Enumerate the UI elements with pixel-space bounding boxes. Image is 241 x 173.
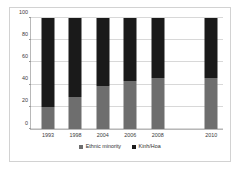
bar-slot: 2010 — [197, 18, 224, 129]
x-axis-tick-label: 1993 — [42, 133, 54, 138]
legend-swatch-icon — [79, 145, 83, 149]
bar-segment-kinh-hoa[interactable] — [41, 18, 54, 107]
x-axis-tick-label: 2004 — [97, 133, 109, 138]
plot-area: 020406080100 199319982004200620082010 — [30, 18, 223, 130]
stacked-bar[interactable] — [151, 18, 164, 129]
bar-segment-ethnic-minority[interactable] — [69, 97, 82, 129]
bar-segment-ethnic-minority[interactable] — [96, 86, 109, 129]
bar-slot: 2006 — [117, 18, 144, 129]
bar-group: 199319982004200620082010 — [31, 18, 223, 129]
bar-slot: 2004 — [89, 18, 116, 129]
bar-segment-ethnic-minority[interactable] — [151, 78, 164, 129]
y-axis-tick-label: 80 — [22, 32, 28, 37]
bar-segment-kinh-hoa[interactable] — [124, 18, 137, 81]
bar-segment-kinh-hoa[interactable] — [205, 18, 218, 78]
bar-segment-ethnic-minority[interactable] — [205, 78, 218, 129]
y-axis-tick-label: 20 — [22, 99, 28, 104]
stacked-bar[interactable] — [69, 18, 82, 129]
bar-slot: 1993 — [34, 18, 61, 129]
bar-segment-kinh-hoa[interactable] — [96, 18, 109, 86]
legend-item-kinh-hoa: Kinh/Hoa — [132, 144, 161, 149]
bar-slot: 1998 — [62, 18, 89, 129]
bar-segment-ethnic-minority[interactable] — [124, 81, 137, 129]
legend-swatch-icon — [132, 145, 136, 149]
chart-legend: Ethnic minority Kinh/Hoa — [10, 144, 230, 149]
x-axis-tick-label: 1998 — [69, 133, 81, 138]
stacked-bar[interactable] — [124, 18, 137, 129]
bar-segment-kinh-hoa[interactable] — [151, 18, 164, 78]
bar-segment-kinh-hoa[interactable] — [69, 18, 82, 97]
y-axis-tick-label: 100 — [19, 10, 28, 15]
bar-segment-ethnic-minority[interactable] — [41, 107, 54, 129]
legend-label: Ethnic minority — [86, 144, 121, 149]
y-axis-tick-label: 40 — [22, 77, 28, 82]
stacked-bar[interactable] — [96, 18, 109, 129]
stacked-bar[interactable] — [205, 18, 218, 129]
x-axis-tick-label: 2008 — [152, 133, 164, 138]
legend-label: Kinh/Hoa — [139, 144, 161, 149]
x-axis-tick-label: 2010 — [205, 133, 217, 138]
y-axis-tick-label: 60 — [22, 54, 28, 59]
y-axis-tick-label: 0 — [25, 121, 28, 126]
legend-item-ethnic-minority: Ethnic minority — [79, 144, 121, 149]
chart-container: 020406080100 199319982004200620082010 Et… — [9, 7, 231, 162]
chart-plot-wrapper: 020406080100 199319982004200620082010 Et… — [10, 8, 230, 161]
stacked-bar[interactable] — [41, 18, 54, 129]
bar-slot: 2008 — [144, 18, 171, 129]
x-axis-tick-label: 2006 — [124, 133, 136, 138]
